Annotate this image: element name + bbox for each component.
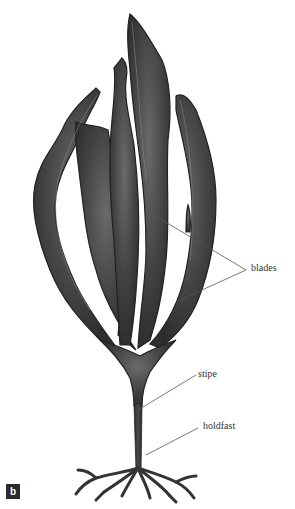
blades	[33, 14, 216, 406]
holdfast	[76, 468, 196, 502]
blade-base	[100, 340, 176, 406]
label-stipe: stipe	[198, 368, 217, 379]
label-blades: blades	[251, 262, 277, 273]
stipe	[134, 404, 142, 470]
panel-label: b	[6, 484, 20, 499]
label-holdfast: holdfast	[203, 420, 235, 431]
kelp-illustration	[0, 0, 295, 509]
blade-spike	[186, 205, 190, 232]
